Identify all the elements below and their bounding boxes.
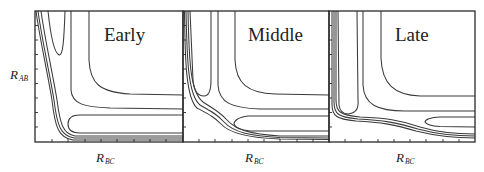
x-label-middle-main: R [244,150,253,165]
x-label-late-sub: BC [405,157,416,166]
y-label-sub: AB [18,74,29,83]
x-label-late-main: R [395,150,404,165]
x-axis-label-middle: R BC [244,150,265,166]
panel-middle: Middle [185,11,330,140]
panel-title-middle: Middle [248,24,303,45]
y-label-main: R [9,67,18,82]
panel-late: Late [332,11,475,138]
panel-early: Early [36,11,183,140]
x-label-early-main: R [95,150,104,165]
panel-title-late: Late [395,24,429,45]
x-axis-label-early: R BC [95,150,116,166]
x-label-early-sub: BC [105,157,116,166]
x-axis-label-late: R BC [395,150,416,166]
contour-figure: Early Middle [0,0,484,172]
panel-title-early: Early [104,24,146,45]
y-axis-label: R AB [9,67,29,83]
x-label-middle-sub: BC [254,157,265,166]
